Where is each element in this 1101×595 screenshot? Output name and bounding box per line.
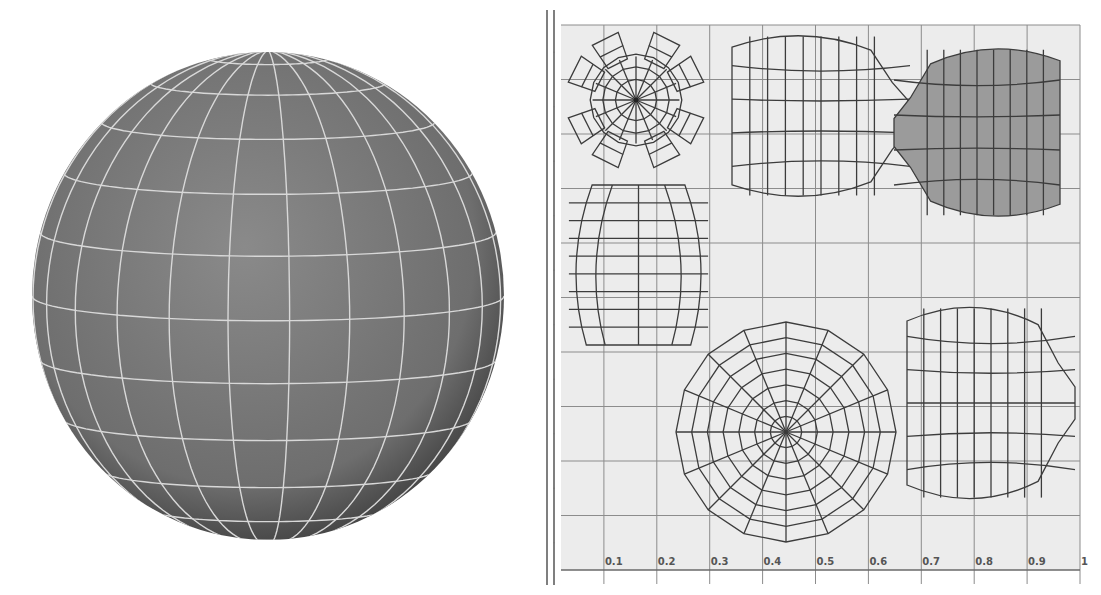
u-axis-tick-label: 0.5 — [817, 556, 835, 567]
bottom-cap-shell[interactable] — [676, 322, 896, 542]
uv-grid[interactable]: 0.10.20.30.40.50.60.70.80.91 — [540, 0, 1101, 595]
u-axis-tick-label: 0.9 — [1028, 556, 1046, 567]
u-axis-tick-label: 0.3 — [711, 556, 729, 567]
perspective-viewport[interactable] — [0, 0, 540, 595]
u-axis-tick-label: 0.7 — [922, 556, 940, 567]
u-axis-tick-label: 1 — [1081, 556, 1088, 567]
u-axis-tick-label: 0.6 — [869, 556, 887, 567]
sphere-wireframe[interactable] — [0, 0, 540, 595]
u-axis-tick-label: 0.1 — [605, 556, 623, 567]
u-axis-tick-label: 0.2 — [658, 556, 676, 567]
u-axis-tick-label: 0.4 — [764, 556, 782, 567]
screenshot-stage: 0.10.20.30.40.50.60.70.80.91 3D viewport… — [0, 0, 1101, 595]
u-axis-tick-label: 0.8 — [975, 556, 993, 567]
uv-editor-panel[interactable]: 0.10.20.30.40.50.60.70.80.91 — [540, 0, 1101, 595]
